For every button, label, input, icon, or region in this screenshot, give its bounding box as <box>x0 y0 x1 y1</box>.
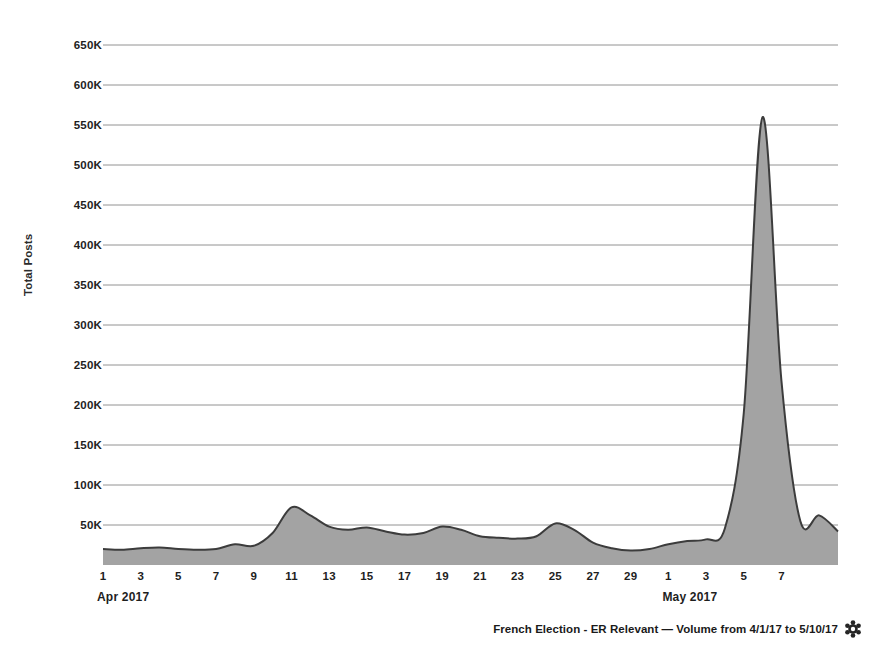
chart-container: Total Posts 50K100K150K200K250K300K350K4… <box>0 0 876 666</box>
x-axis-tick-label: 9 <box>250 570 257 582</box>
x-axis-tick-label: 13 <box>323 570 336 582</box>
chart-footer: French Election - ER Relevant — Volume f… <box>493 620 862 638</box>
x-axis-tick-label: 11 <box>285 570 298 582</box>
plot-area <box>0 0 876 666</box>
x-axis-tick-label: 7 <box>213 570 220 582</box>
x-axis-tick-label: 23 <box>511 570 524 582</box>
x-axis-tick-label: 21 <box>473 570 486 582</box>
x-axis-tick-label: 29 <box>624 570 637 582</box>
x-axis-tick-label: 1 <box>665 570 672 582</box>
x-axis-tick-label: 27 <box>586 570 599 582</box>
x-axis-tick-label: 25 <box>549 570 562 582</box>
x-axis-tick-label: 5 <box>175 570 182 582</box>
area-series-fill <box>103 117 838 565</box>
area-series-line <box>103 117 838 551</box>
x-axis-tick-label: 17 <box>398 570 411 582</box>
footer-caption: French Election - ER Relevant — Volume f… <box>493 623 838 635</box>
x-axis-month-label: May 2017 <box>662 590 717 604</box>
x-axis-tick-label: 3 <box>137 570 144 582</box>
x-axis-tick-label: 19 <box>436 570 449 582</box>
x-axis-tick-label: 15 <box>360 570 373 582</box>
gear-icon[interactable] <box>844 620 862 638</box>
x-axis-tick-label: 7 <box>778 570 785 582</box>
x-axis-tick-label: 5 <box>740 570 747 582</box>
x-axis-tick-label: 3 <box>703 570 710 582</box>
x-axis-month-label: Apr 2017 <box>97 590 149 604</box>
x-axis-tick-label: 1 <box>100 570 107 582</box>
